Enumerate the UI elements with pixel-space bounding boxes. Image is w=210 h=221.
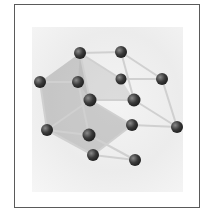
lattice-model: [0, 0, 210, 221]
